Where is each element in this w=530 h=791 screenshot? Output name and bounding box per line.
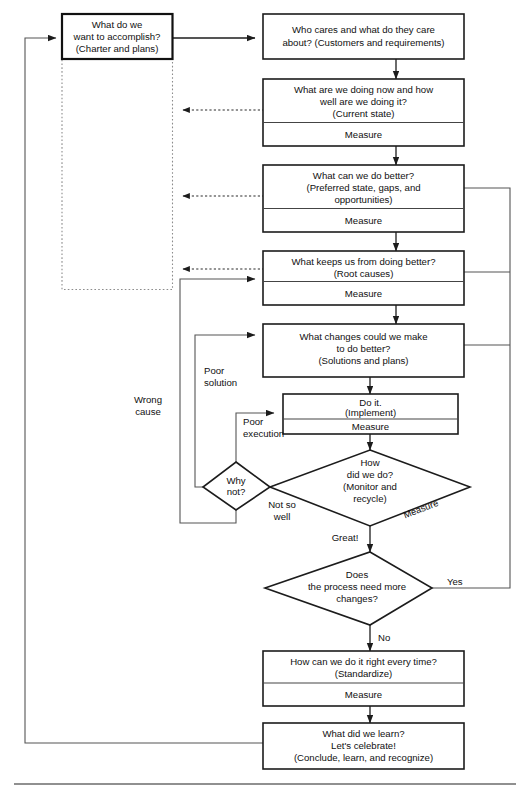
flowchart-canvas: What do we want to accomplish? (Charter … (0, 0, 530, 791)
node-why-not-line-2: not? (227, 486, 246, 497)
edge-label-wrong-cause-line-2: cause (135, 406, 161, 417)
node-standardize-measure: Measure (345, 689, 382, 700)
node-current-state-line-2: well are we doing it? (319, 96, 407, 107)
node-learn-line-2: Let's celebrate! (331, 740, 396, 751)
node-do-better-line-2: (Preferred state, gaps, and (306, 182, 420, 193)
edge-yes-to-do-better (405, 188, 510, 588)
edge-label-wrong-cause-line-1: Wrong (134, 394, 162, 405)
edge-label-no: No (378, 632, 390, 643)
edge-label-great: Great! (332, 532, 359, 543)
edge-label-poor-execution: Poor execution (243, 416, 284, 439)
dotted-scope-region (62, 59, 173, 290)
node-changes-line-3: (Solutions and plans) (318, 355, 408, 366)
edge-label-poor-solution-line-2: solution (204, 377, 237, 388)
node-how-did-we-do[interactable]: How did we do? (Monitor and recycle) Mea… (270, 450, 470, 526)
node-accomplish-line-2: want to accomplish? (73, 31, 161, 42)
node-how-did-we-do-line-3: (Monitor and (343, 481, 397, 492)
edge-poor-solution-to-changes (195, 335, 255, 487)
node-accomplish[interactable]: What do we want to accomplish? (Charter … (62, 14, 173, 59)
node-how-did-we-do-line-2: did we do? (347, 469, 393, 480)
edge-label-poor-execution-line-2: execution (243, 428, 284, 439)
node-do-better-line-1: What can we do better? (313, 170, 414, 181)
node-learn-line-1: What did we learn? (322, 728, 404, 739)
node-learn[interactable]: What did we learn? Let's celebrate! (Con… (263, 723, 464, 769)
node-do-it-line-2: (Implement) (345, 407, 396, 418)
node-accomplish-line-3: (Charter and plans) (76, 43, 159, 54)
node-do-better[interactable]: What can we do better? (Preferred state,… (263, 165, 464, 232)
node-more-changes-line-3: changes? (336, 593, 378, 604)
flowchart-svg: What do we want to accomplish? (Charter … (0, 0, 530, 791)
node-more-changes-line-1: Does (346, 569, 369, 580)
node-how-did-we-do-line-1: How (360, 457, 379, 468)
node-who-cares[interactable]: Who cares and what do they care about? (… (263, 14, 464, 59)
edge-label-not-so-well: Not so well (268, 499, 296, 522)
node-do-better-line-3: opportunities) (334, 194, 392, 205)
edge-learn-to-accomplish-return (25, 38, 263, 743)
node-how-did-we-do-line-4: recycle) (353, 493, 387, 504)
node-changes[interactable]: What changes could we make to do better?… (263, 324, 464, 377)
edge-label-poor-execution-line-1: Poor (243, 416, 264, 427)
node-root-causes[interactable]: What keeps us from doing better? (Root c… (263, 251, 464, 305)
node-changes-line-1: What changes could we make (300, 331, 428, 342)
edge-label-poor-solution: Poor solution (204, 365, 237, 388)
edge-label-yes: Yes (447, 576, 463, 587)
node-who-cares-line-1: Who cares and what do they care (292, 24, 435, 35)
node-current-state-measure: Measure (345, 129, 382, 140)
node-do-better-measure: Measure (345, 215, 382, 226)
node-learn-line-3: (Conclude, learn, and recognize) (294, 752, 433, 763)
node-more-changes[interactable]: Does the process need more changes? (265, 552, 432, 625)
node-root-causes-line-2: (Root causes) (334, 268, 394, 279)
node-accomplish-line-1: What do we (92, 19, 143, 30)
edge-label-not-so-well-line-1: Not so (268, 499, 296, 510)
node-root-causes-line-1: What keeps us from doing better? (292, 256, 436, 267)
node-standardize-line-1: How can we do it right every time? (290, 656, 437, 667)
edge-label-wrong-cause: Wrong cause (134, 394, 162, 417)
node-standardize[interactable]: How can we do it right every time? (Stan… (263, 651, 464, 706)
node-do-it[interactable]: Do it. (Implement) Measure (283, 394, 458, 434)
node-do-it-measure: Measure (352, 421, 389, 432)
node-changes-line-2: to do better? (337, 343, 391, 354)
node-standardize-line-2: (Standardize) (335, 668, 393, 679)
edge-label-poor-solution-line-1: Poor (204, 365, 225, 376)
node-more-changes-line-2: the process need more (308, 581, 406, 592)
edge-label-not-so-well-line-2: well (273, 511, 291, 522)
node-current-state-line-1: What are we doing now and how (294, 84, 433, 95)
node-why-not-line-1: Why (226, 475, 245, 486)
node-why-not[interactable]: Why not? (203, 462, 270, 510)
node-current-state[interactable]: What are we doing now and how well are w… (263, 79, 464, 146)
node-who-cares-line-2: about? (Customers and requirements) (282, 37, 444, 48)
node-current-state-line-3: (Current state) (333, 108, 395, 119)
node-root-causes-measure: Measure (345, 288, 382, 299)
